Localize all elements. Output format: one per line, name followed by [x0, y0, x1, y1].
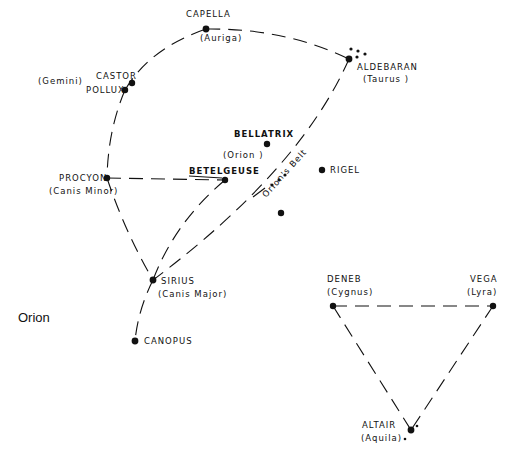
saiph-star: [278, 210, 284, 216]
connection-sirius-canopus: [135, 280, 153, 341]
star-capella: [203, 26, 210, 33]
constellation-label-aldebaran: (Taurus ): [363, 74, 409, 84]
stars-layer: [104, 26, 496, 434]
altair-companion-dot: [416, 425, 419, 428]
star-altair: [408, 427, 415, 434]
star-aldebaran: [346, 56, 353, 63]
star-canopus: [132, 338, 139, 345]
star-label-deneb: DENEB: [327, 274, 361, 284]
connection-betelgeuse-sirius: [153, 180, 225, 280]
chart-title: Orion: [18, 310, 50, 325]
cluster-dot: [356, 49, 359, 52]
star-chart: CAPELLA(Auriga)CASTOR(Gemini)POLLUXALDEB…: [0, 0, 513, 464]
betelgeuse-underline: [189, 176, 222, 178]
constellation-label-procyon: (Canis Minor): [49, 186, 118, 196]
star-label-betelgeuse: BETELGEUSE: [189, 166, 260, 176]
star-vega: [490, 303, 496, 309]
constellation-label-bellatrix: (Orion ): [223, 150, 263, 160]
star-bellatrix: [264, 141, 270, 147]
altair-companion-dot: [404, 438, 407, 441]
cluster-dot: [355, 55, 358, 58]
connection-deneb-altair: [333, 306, 411, 430]
star-betelgeuse: [222, 177, 228, 183]
labels-layer: CAPELLA(Auriga)CASTOR(Gemini)POLLUXALDEB…: [38, 9, 498, 443]
constellation-label-sirius: (Canis Major): [158, 289, 227, 299]
star-label-castor: CASTOR: [96, 71, 137, 81]
star-label-pollux: POLLUX: [86, 85, 125, 95]
constellation-label-castor: (Gemini): [38, 76, 83, 86]
constellation-label-deneb: (Cygnus): [327, 287, 373, 297]
connection-procyon-betelgeuse: [107, 178, 225, 180]
connection-vega-altair: [411, 306, 493, 430]
star-label-aldebaran: ALDEBARAN: [357, 62, 418, 72]
constellation-label-capella: (Auriga): [200, 33, 242, 43]
star-label-sirius: SIRIUS: [161, 276, 195, 286]
cluster-dot: [349, 47, 352, 50]
orions-belt-label: Orion's Belt: [260, 147, 308, 199]
star-rigel: [319, 167, 325, 173]
star-label-vega: VEGA: [470, 274, 498, 284]
star-label-procyon: PROCYON: [59, 173, 107, 183]
aldebaran-cluster: [349, 47, 366, 58]
star-label-capella: CAPELLA: [186, 9, 231, 19]
star-label-rigel: RIGEL: [330, 165, 360, 175]
star-deneb: [330, 303, 336, 309]
star-sirius: [150, 277, 157, 284]
star-label-bellatrix: BELLATRIX: [234, 129, 294, 139]
cluster-dot: [363, 52, 366, 55]
constellation-label-altair: (Aquila): [361, 433, 402, 443]
connection-lines: [107, 29, 493, 430]
star-label-altair: ALTAIR: [362, 420, 396, 430]
connection-pollux-procyon: [107, 90, 125, 178]
constellation-label-vega: (Lyra): [467, 287, 497, 297]
connection-pollux-capella: [125, 29, 206, 90]
star-label-canopus: CANOPUS: [144, 336, 193, 346]
